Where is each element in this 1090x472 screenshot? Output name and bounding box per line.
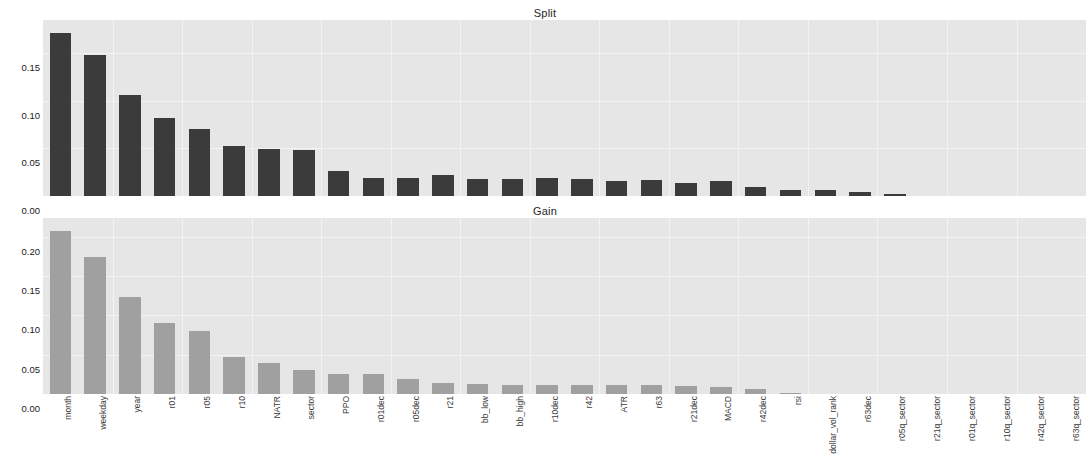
bar bbox=[780, 393, 802, 394]
plot-area-gain bbox=[43, 218, 1086, 394]
x-axis-tick-label: bb_high bbox=[516, 396, 525, 426]
plot-wrapper-gain bbox=[43, 218, 1086, 394]
panel-title-gain: Gain bbox=[0, 204, 1090, 218]
bar bbox=[189, 129, 211, 196]
panel-split: Split 0.000.050.100.15 bbox=[0, 6, 1090, 196]
x-axis-tick-label: r21q_sector bbox=[933, 396, 942, 441]
bar bbox=[258, 363, 280, 394]
x-axis-tick-label: r42 bbox=[585, 396, 594, 408]
bar bbox=[467, 179, 489, 196]
panel-gain: Gain 0.000.050.100.150.20 bbox=[0, 204, 1090, 394]
bar bbox=[884, 194, 906, 196]
panel-title-split: Split bbox=[0, 6, 1090, 20]
bar bbox=[84, 257, 106, 394]
x-axis-tick-label: r10dec bbox=[551, 396, 560, 422]
x-axis-tick-label: r05dec bbox=[412, 396, 421, 422]
x-axis-tick-label: r63dec bbox=[864, 396, 873, 422]
bar bbox=[502, 385, 524, 394]
x-axis-tick-label: r42q_sector bbox=[1037, 396, 1046, 441]
y-axis-tick-label: 0.20 bbox=[2, 245, 40, 256]
y-axis-tick-label: 0.05 bbox=[2, 157, 40, 168]
bar bbox=[536, 385, 558, 394]
bar bbox=[571, 179, 593, 196]
bar bbox=[119, 95, 141, 196]
bar bbox=[780, 190, 802, 196]
x-axis-tick-label: r63 bbox=[655, 396, 664, 408]
bar bbox=[815, 190, 837, 196]
bar bbox=[154, 118, 176, 196]
x-axis-labels: monthweekdayyearr01r05r10NATRsectorPPOr0… bbox=[43, 396, 1086, 472]
bar bbox=[258, 149, 280, 196]
bar bbox=[536, 178, 558, 196]
y-axis-tick-label: 0.15 bbox=[2, 285, 40, 296]
x-axis-tick-label: r21 bbox=[446, 396, 455, 408]
bar bbox=[432, 383, 454, 394]
bar bbox=[849, 192, 871, 196]
plot-wrapper-split bbox=[43, 20, 1086, 196]
y-axis-tick-label: 0.10 bbox=[2, 324, 40, 335]
bar bbox=[328, 171, 350, 196]
x-axis-tick-label: r21dec bbox=[690, 396, 699, 422]
bar bbox=[397, 178, 419, 196]
x-axis-tick-label: r10q_sector bbox=[1003, 396, 1012, 441]
y-axis-split: 0.000.050.100.15 bbox=[0, 20, 40, 196]
x-axis-tick-label: r05 bbox=[203, 396, 212, 408]
bar bbox=[675, 386, 697, 394]
bar bbox=[606, 181, 628, 196]
x-axis-tick-label: r63q_sector bbox=[1072, 396, 1081, 441]
x-axis-tick-label: r01dec bbox=[377, 396, 386, 422]
bar bbox=[50, 33, 72, 196]
bar bbox=[606, 385, 628, 394]
bar bbox=[363, 178, 385, 196]
x-axis-tick-label: month bbox=[64, 396, 73, 420]
y-axis-tick-label: 0.05 bbox=[2, 363, 40, 374]
bar bbox=[641, 385, 663, 394]
x-axis-tick-label: sector bbox=[307, 396, 316, 419]
bar bbox=[710, 181, 732, 196]
x-axis-tick-label: dollar_vol_rank bbox=[829, 396, 838, 454]
bar bbox=[363, 374, 385, 394]
x-axis-tick-label: weekday bbox=[99, 396, 108, 430]
y-axis-tick-label: 0.10 bbox=[2, 109, 40, 120]
bar bbox=[710, 387, 732, 394]
bar bbox=[745, 389, 767, 394]
x-axis-tick-label: bb_low bbox=[481, 396, 490, 423]
bar bbox=[502, 179, 524, 196]
bar bbox=[119, 297, 141, 394]
bar bbox=[223, 357, 245, 394]
x-axis-tick-label: ATR bbox=[620, 396, 629, 412]
y-axis-gain: 0.000.050.100.150.20 bbox=[0, 218, 40, 394]
bar bbox=[467, 384, 489, 394]
x-axis-tick-label: NATR bbox=[273, 396, 282, 419]
bar bbox=[50, 231, 72, 394]
bar bbox=[328, 374, 350, 394]
bar bbox=[397, 379, 419, 394]
bar bbox=[189, 331, 211, 394]
x-axis-tick-label: rsi bbox=[794, 396, 803, 405]
bar bbox=[432, 175, 454, 196]
x-axis-tick-label: r05q_sector bbox=[898, 396, 907, 441]
bar bbox=[641, 180, 663, 196]
bars-split bbox=[43, 20, 1086, 196]
bar bbox=[154, 323, 176, 394]
feature-importance-figure: Split 0.000.050.100.15 Gain 0.000.050.10… bbox=[0, 0, 1090, 472]
bar bbox=[675, 183, 697, 196]
x-axis-tick-label: r42dec bbox=[759, 396, 768, 422]
bar bbox=[745, 187, 767, 197]
bar bbox=[571, 385, 593, 394]
y-axis-tick-label: 0.15 bbox=[2, 61, 40, 72]
bar bbox=[223, 146, 245, 196]
x-axis-tick-label: PPO bbox=[342, 396, 351, 414]
x-axis-tick-label: r10 bbox=[238, 396, 247, 408]
x-axis-tick-label: r01 bbox=[168, 396, 177, 408]
y-axis-tick-label: 0.00 bbox=[2, 403, 40, 414]
plot-area-split bbox=[43, 20, 1086, 196]
bars-gain bbox=[43, 218, 1086, 394]
bar bbox=[293, 150, 315, 196]
bar bbox=[84, 55, 106, 196]
x-axis-tick-label: MACD bbox=[724, 396, 733, 421]
x-axis-tick-label: r01q_sector bbox=[968, 396, 977, 441]
x-axis-tick-label: year bbox=[133, 396, 142, 413]
bar bbox=[293, 370, 315, 394]
